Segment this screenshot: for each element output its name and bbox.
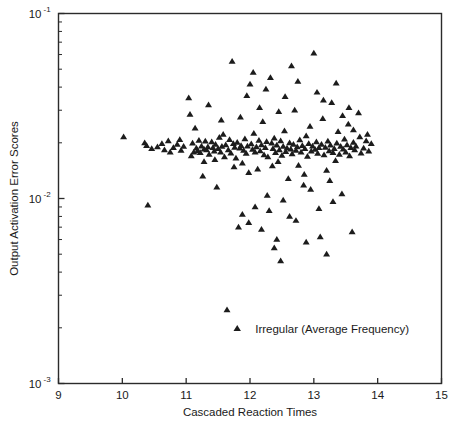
x-axis-title: Cascaded Reaction Times: [183, 406, 317, 418]
y-axis-title: Output Activation Error Scores: [8, 121, 20, 276]
plot-canvas: 9101112131415Cascaded Reaction Times10-1…: [0, 0, 458, 425]
legend-label: Irregular (Average Frequency): [255, 323, 409, 335]
y-tick-label: 10-2: [29, 190, 51, 205]
x-tick-label: 10: [116, 389, 129, 401]
y-tick-base: 10: [29, 378, 42, 390]
y-tick-label: 10-3: [29, 375, 51, 390]
x-tick-label: 11: [180, 389, 192, 401]
y-tick-exponent: -1: [44, 5, 52, 14]
y-tick-base: 10: [29, 8, 42, 20]
scatter-plot-figure: 9101112131415Cascaded Reaction Times10-1…: [0, 0, 458, 425]
x-tick-label: 12: [244, 389, 257, 401]
y-axis-title-text: Output Activation Error Scores: [8, 121, 20, 276]
y-tick-base: 10: [29, 193, 42, 205]
legend: Irregular (Average Frequency): [234, 323, 410, 335]
y-tick-label: 10-1: [29, 5, 51, 20]
x-tick-label: 9: [55, 389, 61, 401]
y-tick-exponent: -2: [44, 190, 52, 199]
x-tick-label: 13: [307, 389, 320, 401]
x-tick-label: 14: [371, 389, 384, 401]
x-tick-label: 15: [435, 389, 448, 401]
y-tick-exponent: -3: [44, 375, 52, 384]
y-axis: 10-110-210-3Output Activation Error Scor…: [8, 5, 65, 390]
